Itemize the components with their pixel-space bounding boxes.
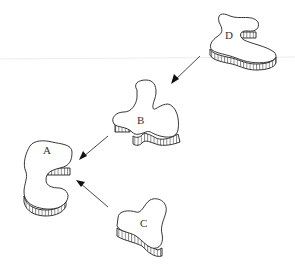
label-c: C <box>140 217 147 229</box>
shape-d: D <box>210 14 276 70</box>
diagram-canvas: D B A C <box>0 0 295 270</box>
arrow-c-to-a <box>76 180 108 207</box>
arrow-d-to-b <box>171 56 200 84</box>
shape-c: C <box>117 199 166 257</box>
label-d: D <box>225 29 233 41</box>
arrow-b-to-a <box>79 136 108 160</box>
shape-a: A <box>24 141 72 216</box>
label-a: A <box>43 144 51 156</box>
shape-b: B <box>113 80 180 145</box>
label-b: B <box>137 114 144 126</box>
